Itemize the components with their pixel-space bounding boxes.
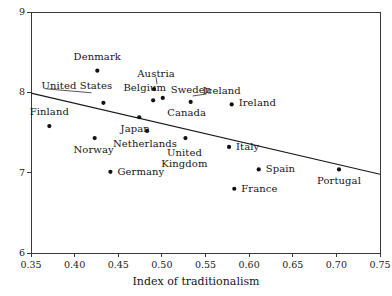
scatter-plot-figure: 6789 0.350.400.450.500.550.600.650.700.7… <box>0 0 392 296</box>
data-point <box>183 136 187 140</box>
data-point <box>230 102 234 106</box>
y-tick-label: 8 <box>9 88 25 98</box>
point-label: Italy <box>236 142 259 153</box>
x-tick-label: 0.40 <box>64 260 85 270</box>
data-point <box>257 167 261 171</box>
point-label-line: Kingdom <box>161 158 207 169</box>
point-label: Japan <box>121 124 150 135</box>
data-point <box>101 101 105 105</box>
x-axis-title: Index of traditionalism <box>133 275 260 288</box>
y-tick-label: 9 <box>9 7 25 17</box>
x-tick-label: 0.65 <box>282 260 303 270</box>
point-label: Finland <box>30 107 69 118</box>
x-tick-label: 0.55 <box>195 260 216 270</box>
point-label: Iceland <box>203 86 241 97</box>
data-point <box>337 167 341 171</box>
x-tick-label: 0.60 <box>239 260 260 270</box>
point-label: Portugal <box>317 176 361 187</box>
data-point <box>95 69 99 73</box>
axis-spine <box>31 12 380 253</box>
point-label-line: United <box>167 147 202 158</box>
point-label: Ireland <box>239 98 276 109</box>
tick-marks <box>27 12 380 257</box>
data-point <box>161 96 165 100</box>
data-point <box>93 136 97 140</box>
data-point <box>151 98 155 102</box>
point-label: United States <box>41 81 112 92</box>
data-point <box>137 115 141 119</box>
point-label: Norway <box>74 145 114 156</box>
point-label: France <box>241 184 277 195</box>
point-label: Canada <box>167 108 206 119</box>
point-label: Germany <box>117 167 164 178</box>
point-label: Belgium <box>123 83 166 94</box>
x-tick-label: 0.50 <box>151 260 172 270</box>
point-label: Spain <box>266 164 295 175</box>
data-point <box>232 187 236 191</box>
y-tick-label: 7 <box>9 168 25 178</box>
data-point <box>108 170 112 174</box>
y-tick-label: 6 <box>9 248 25 258</box>
x-tick-label: 0.45 <box>108 260 129 270</box>
axes <box>31 12 380 253</box>
point-label: Denmark <box>74 52 121 63</box>
data-point <box>189 100 193 104</box>
x-tick-label: 0.70 <box>326 260 347 270</box>
axis-frame <box>31 12 380 253</box>
data-point <box>47 124 51 128</box>
x-tick-label: 0.35 <box>20 260 41 270</box>
point-label: Austria <box>137 69 174 80</box>
data-point <box>227 145 231 149</box>
point-label: UnitedKingdom <box>161 148 207 169</box>
x-tick-label: 0.75 <box>369 260 390 270</box>
